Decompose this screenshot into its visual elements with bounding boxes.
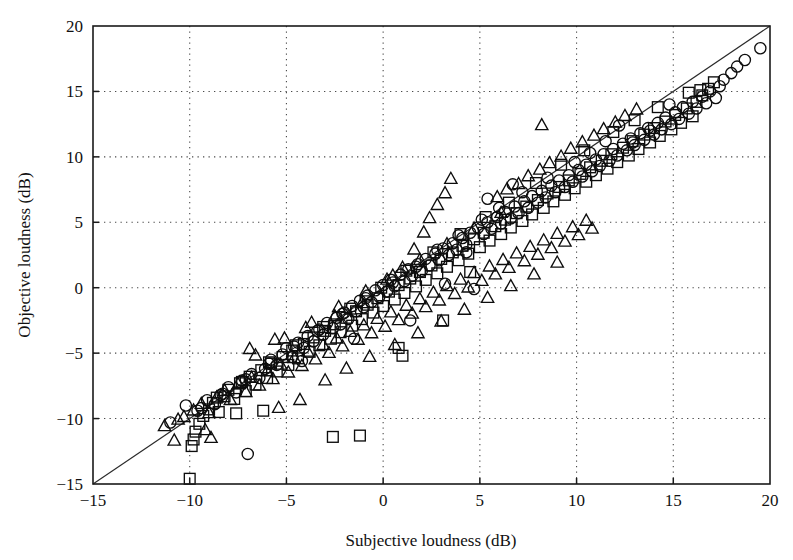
y-tick-label: 20 <box>66 17 83 36</box>
y-axis-title: Objective loudness (dB) <box>15 172 34 337</box>
x-axis-title: Subjective loudness (dB) <box>346 531 517 550</box>
y-tick-label: 10 <box>66 148 83 167</box>
x-tick-label: 20 <box>762 491 779 510</box>
y-tick-label: 0 <box>75 279 84 298</box>
y-tick-label: −5 <box>65 344 83 363</box>
scatter-plot-figure: −15−10−505101520−15−10−505101520 Subject… <box>0 0 793 560</box>
y-tick-label: −15 <box>56 475 83 494</box>
x-tick-label: −5 <box>277 491 295 510</box>
x-tick-label: 5 <box>476 491 485 510</box>
x-tick-label: 10 <box>568 491 585 510</box>
x-tick-label: −10 <box>176 491 203 510</box>
y-tick-label: 5 <box>75 213 84 232</box>
x-tick-label: 0 <box>379 491 388 510</box>
y-tick-label: −10 <box>56 410 83 429</box>
x-tick-label: 15 <box>665 491 682 510</box>
plot-canvas: −15−10−505101520−15−10−505101520 Subject… <box>0 0 793 560</box>
x-tick-label: −15 <box>80 491 107 510</box>
y-tick-label: 15 <box>66 82 83 101</box>
